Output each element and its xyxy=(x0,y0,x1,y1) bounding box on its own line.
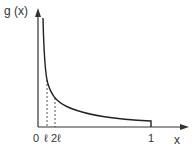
tick-label-origin: 0 xyxy=(33,133,39,144)
plot-canvas xyxy=(0,0,194,152)
tick-label-ell: ℓ xyxy=(44,133,48,144)
g-curve xyxy=(43,18,151,127)
x-axis-label: x xyxy=(174,134,180,146)
y-axis-arrow-icon xyxy=(35,8,41,17)
y-axis-label: g (x) xyxy=(4,5,28,17)
x-axis-arrow-icon xyxy=(180,124,189,130)
tick-label-2ell: 2ℓ xyxy=(51,133,61,144)
tick-label-one: 1 xyxy=(148,133,154,144)
